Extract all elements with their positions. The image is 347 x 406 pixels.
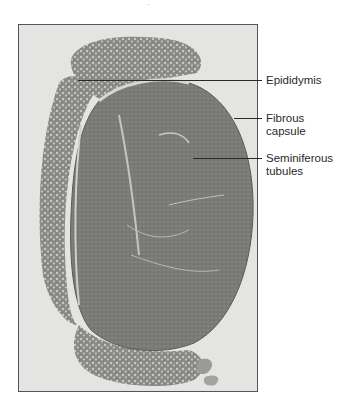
fibrous-capsule-label: Fibrous capsule [266,112,306,138]
epididymis-label: Epididymis [266,74,322,87]
epididymis-leader-line [78,80,262,81]
seminiferous-tubules-label: Seminiferous tubules [266,152,333,178]
histology-figure: Epididymis Fibrous capsule Seminiferous … [0,0,347,406]
seminiferous-tubules-leader-line [193,158,262,159]
speck [148,4,149,5]
fibrous-capsule-leader-line [234,118,262,119]
